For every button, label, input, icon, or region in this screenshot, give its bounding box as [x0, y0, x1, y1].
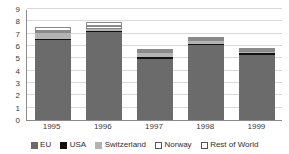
y-tick-label: 3: [16, 80, 20, 88]
gridline: [27, 20, 282, 21]
legend-swatch-icon: [60, 142, 67, 149]
legend-item-switzerland[interactable]: Switzerland: [95, 141, 146, 149]
x-tick-label-1996: 1996: [94, 123, 112, 131]
y-tick-label: 9: [16, 6, 20, 14]
legend-swatch-icon: [201, 142, 208, 149]
legend-item-rest-of-world[interactable]: Rest of World: [201, 141, 259, 149]
y-tick-label: 5: [16, 55, 20, 63]
legend-swatch-icon: [95, 142, 102, 149]
legend-label: USA: [70, 141, 86, 149]
x-tick-label-1998: 1998: [196, 123, 214, 131]
x-tick-label-1999: 1999: [247, 123, 265, 131]
stacked-bar-chart: 0123456789 19951996199719981999 EUUSASwi…: [0, 0, 289, 154]
bar-segment-eu[interactable]: [188, 45, 224, 120]
legend-item-usa[interactable]: USA: [60, 141, 86, 149]
y-tick-label: 0: [16, 117, 20, 125]
legend-label: Norway: [165, 141, 192, 149]
x-tick-label-1995: 1995: [43, 123, 61, 131]
legend-item-norway[interactable]: Norway: [155, 141, 192, 149]
chart-legend: EUUSASwitzerlandNorwayRest of World: [0, 138, 289, 152]
gridline: [27, 8, 282, 9]
legend-swatch-icon: [155, 142, 162, 149]
y-tick-label: 1: [16, 105, 20, 113]
legend-label: Rest of World: [210, 141, 258, 149]
bar-1996[interactable]: [86, 22, 122, 120]
y-tick-label: 4: [16, 68, 20, 76]
legend-item-eu[interactable]: EU: [31, 141, 52, 149]
bar-segment-eu[interactable]: [239, 55, 275, 120]
y-tick-label: 7: [16, 31, 20, 39]
bar-1999[interactable]: [239, 48, 275, 120]
y-tick-label: 8: [16, 18, 20, 26]
legend-label: EU: [40, 141, 51, 149]
x-axis: 19951996199719981999: [26, 123, 282, 136]
legend-label: Switzerland: [105, 141, 146, 149]
bar-segment-eu[interactable]: [35, 40, 71, 120]
y-tick-label: 6: [16, 43, 20, 51]
plot-area: [26, 10, 282, 121]
legend-swatch-icon: [31, 142, 38, 149]
x-tick-label-1997: 1997: [145, 123, 163, 131]
y-axis: 0123456789: [0, 0, 24, 131]
bar-1998[interactable]: [188, 37, 224, 120]
bar-segment-eu[interactable]: [137, 59, 173, 120]
bar-1995[interactable]: [35, 27, 71, 120]
bar-segment-eu[interactable]: [86, 32, 122, 120]
y-tick-label: 2: [16, 92, 20, 100]
bar-1997[interactable]: [137, 49, 173, 120]
